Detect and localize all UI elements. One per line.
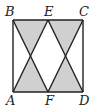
label-f: F [44,93,55,108]
label-d: D [78,93,90,108]
label-e: E [43,4,54,19]
square-diagram: B E C A F D [0,0,92,108]
shaded-triangle-2 [48,20,83,56]
label-a: A [5,93,15,108]
shaded-triangle-3 [13,56,48,92]
shaded-triangle-1 [13,20,48,56]
label-b: B [4,4,15,19]
label-c: C [79,4,89,19]
shaded-triangle-4 [48,56,83,92]
